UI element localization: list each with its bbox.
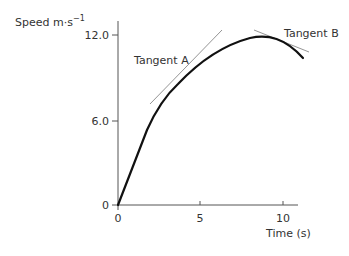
tangent-b-label: Tangent B xyxy=(283,27,339,40)
x-axis-title: Time (s) xyxy=(265,227,311,240)
x-tick-label-10: 10 xyxy=(276,212,290,225)
x-tick-label-0: 0 xyxy=(115,212,122,225)
y-axis-title: Speed m·s−1 xyxy=(15,14,85,29)
tangent-a-label: Tangent A xyxy=(133,54,189,67)
x-tick-label-5: 5 xyxy=(197,212,204,225)
speed-time-chart: 12.0 6.0 0 0 5 10 Speed m·s−1 Time (s) T… xyxy=(0,0,349,256)
tangent-a-line xyxy=(150,30,222,104)
y-tick-label-6: 6.0 xyxy=(92,115,110,128)
y-tick-label-0: 0 xyxy=(102,199,109,212)
y-tick-label-12: 12.0 xyxy=(85,29,110,42)
